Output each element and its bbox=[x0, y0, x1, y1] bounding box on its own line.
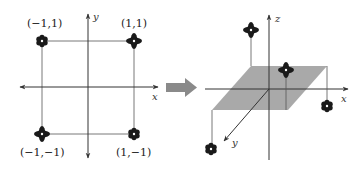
flower-icon bbox=[36, 35, 47, 47]
xor-lifting-diagram: x y (−1,1) (1,1) (−1,−1) (1,−1) z x y bbox=[0, 0, 364, 174]
y-axis-label: y bbox=[92, 11, 99, 22]
point-label: (−1,1) bbox=[27, 17, 62, 30]
flower-icon bbox=[205, 143, 216, 155]
point-label: (1,1) bbox=[121, 17, 147, 30]
z-axis-label: z bbox=[274, 13, 281, 24]
cross-icon bbox=[126, 33, 142, 49]
x-axis-label: x bbox=[152, 91, 158, 102]
flower-icon bbox=[321, 100, 332, 112]
cross-icon bbox=[243, 22, 259, 38]
transform-arrow-icon bbox=[166, 78, 197, 97]
left-plot: x y (−1,1) (1,1) (−1,−1) (1,−1) bbox=[20, 11, 158, 159]
cross-icon bbox=[34, 126, 50, 142]
x-axis-label: x bbox=[341, 93, 347, 104]
y-axis-label: y bbox=[231, 137, 238, 148]
right-plot: z x y bbox=[205, 13, 348, 160]
flower-icon bbox=[128, 128, 139, 140]
point-label: (1,−1) bbox=[116, 146, 151, 159]
point-label: (−1,−1) bbox=[20, 146, 65, 159]
